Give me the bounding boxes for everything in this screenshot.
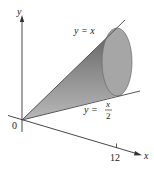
x-axis-label: x	[143, 150, 149, 161]
cone-diagram: y x 12 0 y = x y = x 2	[0, 0, 154, 170]
x-axis-arrow-icon	[134, 151, 142, 156]
x-axis: x 12	[8, 116, 149, 164]
origin-label: 0	[12, 120, 17, 131]
x-tick-label: 12	[110, 152, 120, 163]
label-prefix: y =	[83, 104, 98, 115]
y-axis-label: y	[16, 6, 22, 17]
fraction-numerator: x	[105, 99, 110, 109]
label-y-equals-x: y = x	[73, 25, 95, 36]
fraction-denominator: 2	[106, 111, 111, 121]
y-axis: y	[16, 6, 24, 132]
